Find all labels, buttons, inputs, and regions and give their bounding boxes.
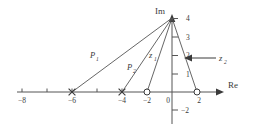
zero-marker-at--1 (144, 89, 150, 95)
vector-label-p2-base: P (126, 62, 132, 72)
axes-group (17, 14, 224, 124)
x-tick-label--4: −4 (118, 96, 126, 105)
vector-label-z1: z 1 (148, 50, 157, 62)
y-tick-label-1: 1 (186, 70, 190, 79)
x-axis-ticks (22, 89, 197, 93)
real-axis-label: Re (228, 80, 238, 90)
x-tick-label--2: −2 (143, 96, 151, 105)
y-tick-label-4: 4 (186, 14, 190, 23)
callout-label-z2: z 2 (218, 53, 227, 65)
y-tick-label--2: −2 (181, 106, 189, 115)
x-tick-label--6: −6 (68, 96, 76, 105)
x-tick-label-2: 2 (197, 96, 201, 105)
complex-plane-figure: Im Re −8 −6 −4 −2 0 2 4 3 2 1 −2 P 1 P 2… (0, 0, 257, 131)
callout-label-z2-subscript: 2 (224, 59, 227, 65)
vector-line-p1 (72, 18, 172, 92)
vector-label-p1-base: P (89, 50, 95, 60)
callout-label-z2-base: z (218, 53, 223, 63)
vector-label-p1: P 1 (89, 50, 99, 62)
y-tick-label-3: 3 (186, 33, 190, 42)
vector-label-z1-subscript: 1 (154, 56, 157, 62)
zero-marker-at-1 (194, 89, 200, 95)
vector-label-p2-subscript: 2 (133, 68, 136, 74)
real-axis-arrowhead (216, 89, 224, 96)
vector-label-p2: P 2 (126, 62, 136, 74)
y-tick-label-2: 2 (186, 51, 190, 60)
vector-line-p2 (122, 18, 172, 92)
pole-zero-plot: Im Re −8 −6 −4 −2 0 2 4 3 2 1 −2 P 1 P 2… (0, 0, 257, 131)
imaginary-axis-label: Im (155, 6, 165, 16)
x-tick-label-0: 0 (166, 96, 170, 105)
vector-label-z1-base: z (148, 50, 153, 60)
vector-label-p1-subscript: 1 (96, 56, 99, 62)
x-tick-label--8: −8 (18, 96, 26, 105)
